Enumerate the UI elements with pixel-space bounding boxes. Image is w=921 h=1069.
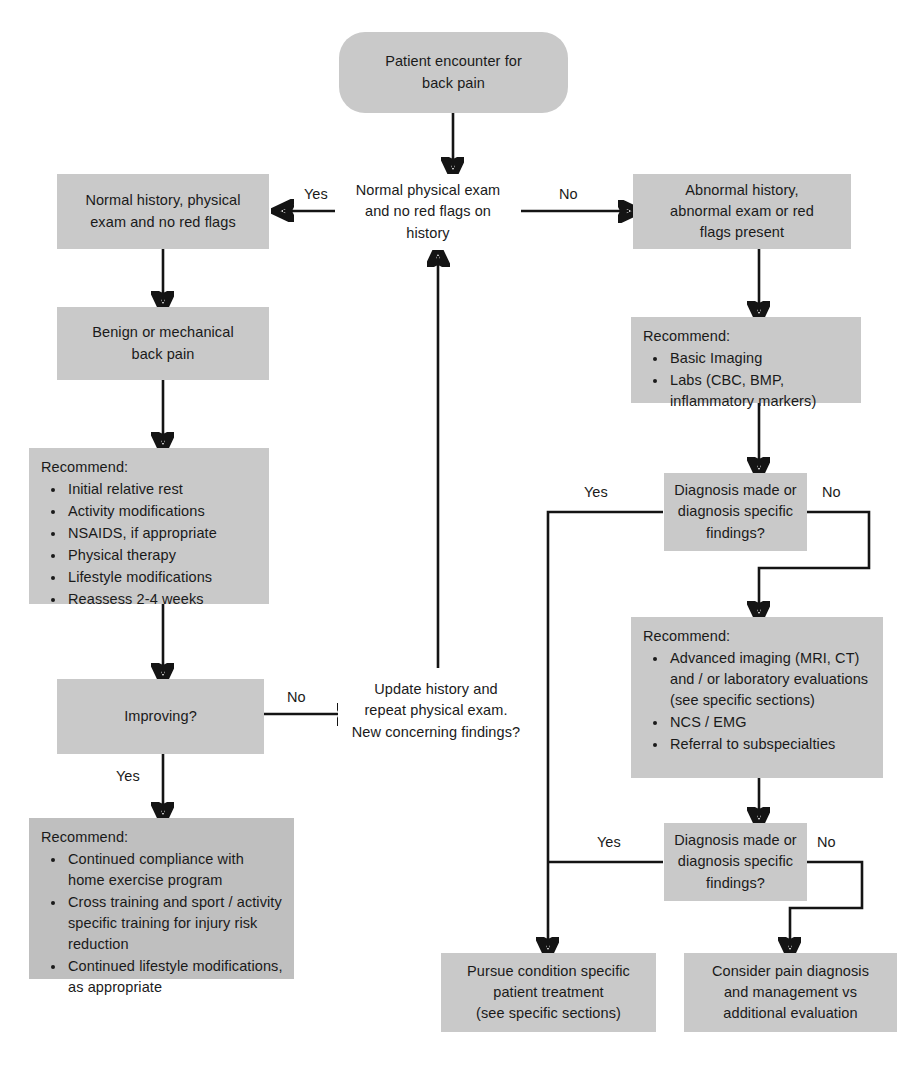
update-history-line3: New concerning findings? [352, 722, 520, 743]
edge-label-no-diagnosis-1: No [822, 484, 841, 500]
list-item: Continued lifestyle modifications, as ap… [66, 956, 284, 998]
node-improving-decision: Improving? [57, 679, 264, 754]
node-update-history: Update history and repeat physical exam.… [338, 673, 534, 749]
node-recommend-basic-workup: Recommend: Basic Imaging Labs (CBC, BMP,… [631, 317, 861, 403]
diagnosis2-line2: diagnosis specific [678, 851, 793, 872]
normal-history-line2: exam and no red flags [90, 212, 236, 233]
benign-line1: Benign or mechanical [92, 322, 233, 343]
list-item: Continued compliance with home exercise … [66, 849, 284, 891]
list-item: Lifestyle modifications [66, 567, 259, 588]
node-diagnosis-decision-2: Diagnosis made or diagnosis specific fin… [664, 823, 807, 901]
list-item: NCS / EMG [668, 712, 873, 733]
node-start-line1: Patient encounter for [385, 51, 522, 72]
diagnosis2-line1: Diagnosis made or [674, 830, 797, 851]
node-diagnosis-decision-1: Diagnosis made or diagnosis specific fin… [664, 473, 807, 551]
diagnosis1-line2: diagnosis specific [678, 501, 793, 522]
consider-line3: additional evaluation [723, 1003, 857, 1024]
list-item: Advanced imaging (MRI, CT) and / or labo… [668, 648, 873, 711]
pursue-line1: Pursue condition specific [467, 961, 630, 982]
list-item: Basic Imaging [668, 348, 851, 369]
update-history-line2: repeat physical exam. [364, 700, 507, 721]
list-item: Cross training and sport / activity spec… [66, 892, 284, 955]
node-decision-top: Normal physical exam and no red flags on… [335, 174, 521, 250]
abnormal-history-line1: Abnormal history, [685, 180, 798, 201]
decision-top-line3: history [406, 223, 449, 244]
list-item: Activity modifications [66, 501, 259, 522]
diagnosis1-line1: Diagnosis made or [674, 480, 797, 501]
diagnosis2-line3: findings? [706, 873, 765, 894]
node-abnormal-history: Abnormal history, abnormal exam or red f… [633, 174, 851, 249]
node-consider-pain-management: Consider pain diagnosis and management v… [684, 953, 897, 1032]
list-item: Labs (CBC, BMP, inflammatory markers) [668, 370, 851, 412]
recommend-basic-heading: Recommend: [643, 326, 851, 347]
update-history-line1: Update history and [374, 679, 498, 700]
decision-top-line2: and no red flags on [365, 201, 491, 222]
list-item: Referral to subspecialties [668, 734, 873, 755]
pursue-line3: (see specific sections) [476, 1003, 621, 1024]
consider-line1: Consider pain diagnosis [712, 961, 869, 982]
list-item: NSAIDS, if appropriate [66, 523, 259, 544]
node-benign-back-pain: Benign or mechanical back pain [57, 307, 269, 380]
node-recommend-advanced-workup: Recommend: Advanced imaging (MRI, CT) an… [631, 617, 883, 778]
decision-top-line1: Normal physical exam [356, 180, 501, 201]
recommend-conservative-heading: Recommend: [41, 457, 259, 478]
list-item: Physical therapy [66, 545, 259, 566]
abnormal-history-line2: abnormal exam or red [670, 201, 814, 222]
pursue-line2: patient treatment [493, 982, 604, 1003]
node-start-line2: back pain [422, 73, 485, 94]
edge-label-no-improving: No [287, 689, 306, 705]
list-item: Reassess 2-4 weeks [66, 589, 259, 610]
normal-history-line1: Normal history, physical [85, 190, 240, 211]
improving-line1: Improving? [124, 706, 197, 727]
node-recommend-conservative: Recommend: Initial relative rest Activit… [29, 448, 269, 604]
node-normal-history: Normal history, physical exam and no red… [57, 174, 269, 249]
consider-line2: and management vs [724, 982, 857, 1003]
recommend-maintenance-list: Continued compliance with home exercise … [41, 849, 284, 998]
edge-label-yes-diagnosis-1: Yes [584, 484, 608, 500]
edge-label-no-top: No [559, 186, 578, 202]
flowchart-canvas: Patient encounter for back pain Normal p… [0, 0, 921, 1069]
edge-label-no-diagnosis-2: No [817, 834, 836, 850]
recommend-conservative-list: Initial relative rest Activity modificat… [41, 479, 259, 610]
node-pursue-treatment: Pursue condition specific patient treatm… [441, 953, 656, 1032]
recommend-basic-list: Basic Imaging Labs (CBC, BMP, inflammato… [643, 348, 851, 412]
recommend-maintenance-heading: Recommend: [41, 827, 284, 848]
benign-line2: back pain [132, 344, 195, 365]
edge-label-yes-top: Yes [304, 186, 328, 202]
abnormal-history-line3: flags present [700, 222, 784, 243]
edge-label-yes-improving: Yes [116, 768, 140, 784]
list-item: Initial relative rest [66, 479, 259, 500]
node-recommend-maintenance: Recommend: Continued compliance with hom… [29, 818, 294, 979]
diagnosis1-line3: findings? [706, 523, 765, 544]
recommend-advanced-list: Advanced imaging (MRI, CT) and / or labo… [643, 648, 873, 755]
recommend-advanced-heading: Recommend: [643, 626, 873, 647]
node-start: Patient encounter for back pain [339, 32, 568, 113]
edge-label-yes-diagnosis-2: Yes [597, 834, 621, 850]
